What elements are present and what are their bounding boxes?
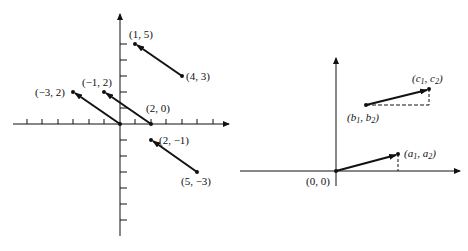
vector-0-0-to-m3-2 (71, 90, 122, 126)
label-b: (b1, b2) (347, 111, 379, 125)
label-m3-2: (−3, 2) (35, 86, 65, 99)
label-a: (a1, a2) (404, 147, 436, 161)
label-origin: (0, 0) (306, 175, 330, 188)
vector-4-3-to-1-5 (133, 42, 184, 78)
right-diagram: (0, 0) (a1, a2) (b1, b2) (c1, c2) (240, 58, 460, 188)
label-m1-2: (−1, 2) (82, 76, 112, 89)
vector-origin-to-a (334, 152, 400, 173)
label-4-3: (4, 3) (186, 70, 210, 83)
label-c: (c1, c2) (412, 72, 443, 86)
label-2-m1: (2, −1) (159, 134, 189, 147)
figure: (1, 5) (4, 3) (−1, 2) (−3, 2) (2, 0) (2,… (0, 0, 468, 251)
label-1-5: (1, 5) (129, 28, 153, 41)
label-5-m3: (5, −3) (181, 175, 211, 188)
label-2-0: (2, 0) (146, 102, 170, 115)
y-axis-ticks (120, 44, 127, 220)
vector-b-to-c (364, 87, 431, 107)
left-diagram: (1, 5) (4, 3) (−1, 2) (−3, 2) (2, 0) (2,… (13, 14, 229, 236)
